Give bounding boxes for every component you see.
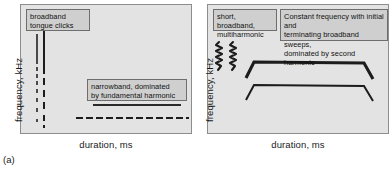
- callout-line: multiharmonic: [217, 30, 273, 39]
- x-axis-label-right: duration, ms: [207, 139, 389, 150]
- callout-line: dominated by second harmonic: [284, 49, 384, 67]
- trace-fundamental-harmonic-contour: [246, 85, 373, 101]
- callout-constant-frequency-sweeps: Constant frequency with initial and term…: [280, 9, 388, 41]
- trace-click-train-a: [36, 34, 38, 128]
- panel-right: short, broadband, multiharmonic Constant…: [207, 4, 389, 134]
- trace-narrowband-solid-tone: [93, 104, 181, 106]
- callout-broadband-tongue-clicks: broadband tongue clicks: [26, 9, 90, 31]
- callout-narrowband-fundamental: narrowband, dominated by fundamental har…: [87, 79, 187, 101]
- y-axis-label-right: frequency, kHz: [204, 58, 215, 122]
- panel-marker-a: (a): [3, 154, 15, 165]
- callout-line: terminating broadband sweeps,: [284, 30, 384, 48]
- trace-multiharmonic-squiggle-a: [214, 41, 224, 71]
- panel-left: broadband tongue clicks narrowband, domi…: [20, 4, 192, 134]
- trace-click-train-b: [43, 30, 45, 128]
- callout-line: Constant frequency with initial and: [284, 12, 384, 30]
- callout-line: by fundamental harmonic: [91, 91, 183, 100]
- trace-multiharmonic-squiggle-b: [228, 41, 238, 71]
- spectrogram-schematic-figure: broadband tongue clicks narrowband, domi…: [0, 0, 392, 175]
- callout-line: tongue clicks: [30, 21, 86, 30]
- trace-narrowband-dashed-tone: [76, 117, 189, 119]
- callout-short-broadband-multiharmonic: short, broadband, multiharmonic: [213, 9, 277, 31]
- callout-line: broadband: [30, 12, 86, 21]
- callout-line: narrowband, dominated: [91, 82, 183, 91]
- callout-line: short, broadband,: [217, 12, 273, 30]
- y-axis-label-left: frequency, kHz: [13, 58, 24, 122]
- x-axis-label-left: duration, ms: [20, 139, 192, 150]
